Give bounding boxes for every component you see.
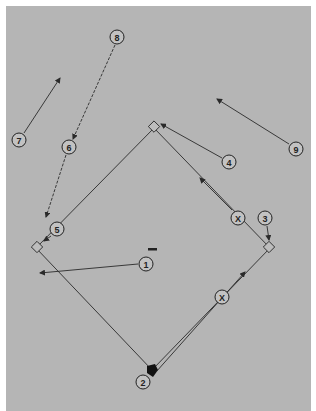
runner-arrow-home-to-first [156, 272, 245, 372]
second-base-icon [148, 121, 159, 132]
player-marker-5: 5 [50, 222, 64, 236]
arrow-9-to-right-center [217, 99, 289, 144]
arrow-3-to-first-base [267, 226, 269, 240]
player-marker-1: 1 [139, 257, 153, 271]
pitchers-mound-icon [148, 248, 157, 251]
dashed-arrow-8-to-6 [73, 45, 115, 139]
svg-text:6: 6 [66, 143, 71, 153]
player-marker-7: 7 [12, 133, 26, 147]
player-marker-3: 3 [258, 211, 272, 225]
svg-text:5: 5 [54, 225, 59, 235]
arrow-7-to-left-field [24, 78, 60, 133]
svg-text:4: 4 [226, 158, 231, 168]
dashed-arrow-6-to-third-area [46, 155, 66, 217]
svg-text:9: 9 [293, 145, 298, 155]
player-marker-6: 6 [62, 140, 76, 154]
runner-marker-x-lower: X [215, 290, 229, 304]
runner-marker-x-upper: X [231, 211, 245, 225]
svg-text:X: X [219, 293, 225, 303]
svg-text:X: X [235, 214, 241, 224]
baseball-field-diagram: 8 7 6 9 4 X 3 5 1 X 2 [0, 0, 316, 411]
player-marker-8: 8 [110, 30, 124, 44]
arrow-1-to-third-area [40, 264, 138, 273]
svg-text:8: 8 [114, 33, 119, 43]
player-marker-2: 2 [136, 375, 150, 389]
svg-text:7: 7 [16, 136, 21, 146]
arrow-4-to-second-base [161, 124, 222, 158]
player-marker-9: 9 [289, 142, 303, 156]
player-marker-4: 4 [222, 155, 236, 169]
svg-text:1: 1 [143, 260, 148, 270]
svg-text:3: 3 [262, 214, 267, 224]
arrow-x-to-second-base [200, 178, 232, 210]
svg-text:2: 2 [140, 378, 145, 388]
